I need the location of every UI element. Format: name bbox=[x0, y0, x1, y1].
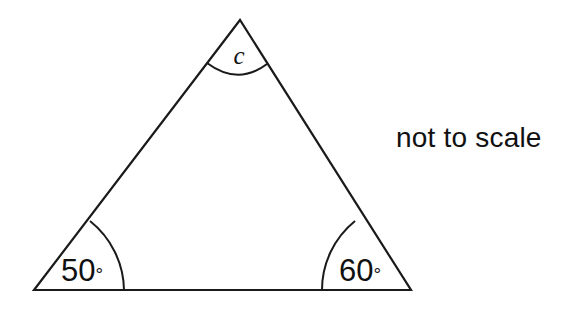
apex-angle-label: c bbox=[233, 42, 244, 69]
triangle-outline bbox=[34, 20, 411, 290]
triangle-diagram: c 50° 60° bbox=[0, 0, 581, 309]
bottom-right-angle-label: 60° bbox=[339, 253, 381, 288]
geometry-figure: c 50° 60° not to scale bbox=[0, 0, 581, 309]
not-to-scale-note: not to scale bbox=[396, 122, 542, 154]
bottom-right-degree-icon: ° bbox=[373, 264, 381, 285]
bottom-left-angle-label: 50° bbox=[61, 253, 103, 288]
bottom-right-angle-value: 60 bbox=[339, 253, 373, 288]
bottom-left-degree-icon: ° bbox=[95, 264, 103, 285]
bottom-left-angle-value: 50 bbox=[61, 253, 95, 288]
